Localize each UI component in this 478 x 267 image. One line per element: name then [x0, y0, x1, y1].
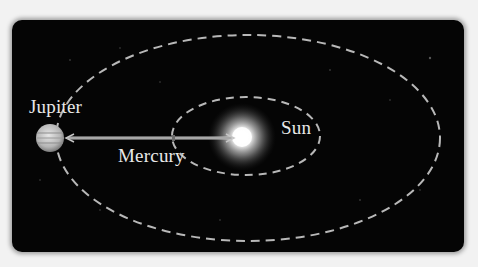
mercury-label: Mercury — [118, 146, 185, 165]
jupiter-label: Jupiter — [29, 97, 82, 116]
jupiter-icon — [36, 124, 64, 152]
sun-icon — [232, 127, 252, 147]
sun-label: Sun — [281, 118, 311, 137]
orbit-diagram — [0, 0, 478, 267]
mercury-icon — [172, 135, 175, 141]
